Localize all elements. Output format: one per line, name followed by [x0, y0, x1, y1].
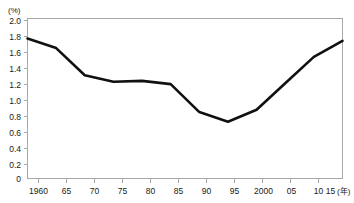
ytick-label-0: 0 — [16, 174, 21, 184]
ytick-label-1-6: 1.6 — [9, 48, 21, 58]
ytick-label-0-2: 0.2 — [9, 160, 21, 170]
x-axis-title: (年) — [337, 186, 351, 196]
ytick-label-1-4: 1.4 — [9, 64, 21, 74]
ytick-label-0-8: 0.8 — [9, 112, 21, 122]
x-axis-ticks — [39, 179, 319, 183]
xtick-label-75: 75 — [118, 186, 128, 196]
xtick-label-90: 90 — [202, 186, 212, 196]
ytick-label-2-0: 2.0 — [9, 16, 21, 26]
y-axis-tick-labels: 2.0 1.8 1.6 1.4 1.2 1.0 0.8 0.6 0.4 0.2 … — [9, 16, 21, 185]
xtick-label-70: 70 — [90, 186, 100, 196]
xtick-label-05: 05 — [287, 186, 297, 196]
ytick-label-1-0: 1.0 — [9, 96, 21, 106]
y-axis-ticks — [24, 21, 28, 165]
xtick-label-10: 10 — [314, 186, 324, 196]
chart-figure: (%) 2.0 1.8 1.6 1.4 1.2 1.0 0.8 0.6 0.4 — [0, 0, 354, 203]
xtick-label-15: 15 — [326, 186, 336, 196]
data-series-line — [28, 39, 343, 122]
ytick-label-1-8: 1.8 — [9, 32, 21, 42]
xtick-label-80: 80 — [146, 186, 156, 196]
ytick-label-0-4: 0.4 — [9, 144, 21, 154]
xtick-label-65: 65 — [62, 186, 72, 196]
ytick-label-1-2: 1.2 — [9, 80, 21, 90]
xtick-label-2000: 2000 — [254, 186, 273, 196]
ytick-label-0-6: 0.6 — [9, 128, 21, 138]
x-axis-tick-labels: 1960 65 70 75 80 85 90 95 2000 05 10 15 — [29, 186, 335, 196]
line-chart: (%) 2.0 1.8 1.6 1.4 1.2 1.0 0.8 0.6 0.4 — [0, 0, 354, 203]
xtick-label-85: 85 — [174, 186, 184, 196]
y-axis-unit-label: (%) — [8, 6, 21, 15]
xtick-label-95: 95 — [230, 186, 240, 196]
xtick-label-1960: 1960 — [29, 186, 48, 196]
